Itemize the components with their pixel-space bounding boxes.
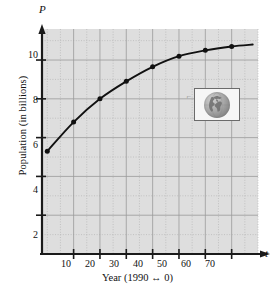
x-tick-label: 20	[78, 258, 102, 269]
inset-pointer: ⌐	[186, 92, 191, 101]
x-axis-symbol: t	[265, 247, 268, 259]
x-tick-label: 10	[54, 258, 78, 269]
x-tick-label: 40	[126, 258, 150, 269]
population-growth-figure: 10 8 6 4 2 10 20 30 40 50 60 70 P t Popu…	[0, 0, 275, 290]
y-axis-symbol: P	[39, 3, 46, 15]
globe-icon	[204, 92, 230, 118]
tick-marks	[0, 0, 275, 290]
x-tick-label: 60	[174, 258, 198, 269]
globe-inset-box	[194, 88, 240, 121]
y-tick-label: 2	[16, 229, 38, 240]
x-tick-label: 70	[198, 258, 222, 269]
y-axis-title: Population (in billions)	[17, 41, 28, 211]
x-tick-label: 30	[102, 258, 126, 269]
x-tick-label: 50	[150, 258, 174, 269]
x-axis-title: Year (1990 ↔ 0)	[0, 272, 275, 283]
